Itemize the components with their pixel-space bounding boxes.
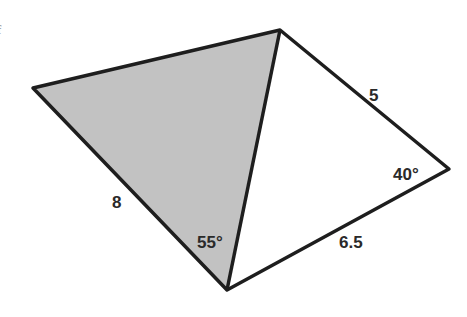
side-label-6-5: 6.5 [339, 233, 363, 252]
edge-text-fragment: f [0, 22, 2, 37]
shaded-triangle [33, 30, 280, 290]
angle-label-40: 40° [393, 165, 419, 184]
angle-label-55: 55° [197, 233, 223, 252]
side-label-8: 8 [112, 193, 121, 212]
geometry-diagram: f 8 5 6.5 55° 40° [0, 0, 467, 317]
side-label-5: 5 [369, 86, 378, 105]
